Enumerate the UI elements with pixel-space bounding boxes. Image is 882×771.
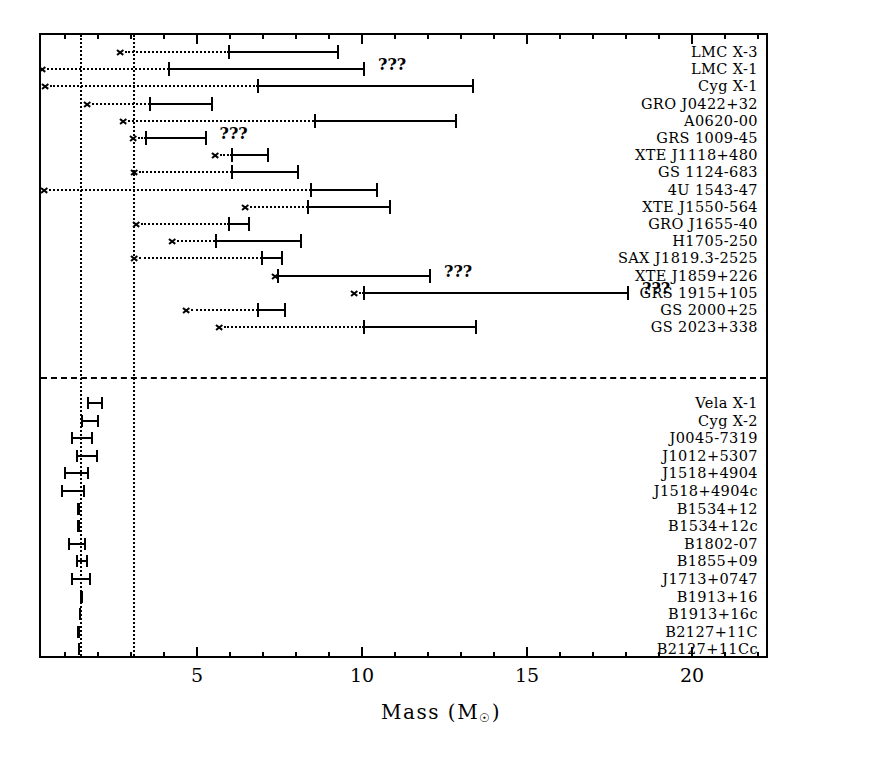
x-tick-top bbox=[328, 33, 330, 39]
measurement-bar bbox=[82, 420, 99, 422]
error-bar-cap-low bbox=[257, 79, 259, 93]
lower-limit-arrow-icon bbox=[117, 45, 124, 59]
object-name-label: XTE J1118+480 bbox=[635, 147, 758, 163]
x-tick-top bbox=[691, 33, 693, 44]
figure-root: LMC X-3???LMC X-1Cyg X-1GRO J0422+32A062… bbox=[0, 0, 882, 771]
error-bar-cap-low bbox=[149, 97, 151, 111]
error-bar-row bbox=[41, 501, 766, 517]
object-name-label: B1534+12c bbox=[668, 518, 758, 534]
error-bar-cap-high bbox=[475, 320, 477, 334]
lower-limit-dotted-line bbox=[49, 189, 312, 191]
reference-line-maximum-neutron-star-mass bbox=[133, 35, 135, 656]
error-bar-cap-low bbox=[231, 165, 233, 179]
error-bar-cap-low bbox=[228, 45, 230, 59]
error-bar-cap-high bbox=[211, 97, 213, 111]
x-tick-major bbox=[196, 647, 198, 658]
object-name-label: J1518+4904c bbox=[654, 483, 758, 499]
error-bar-cap-low bbox=[168, 62, 170, 76]
error-bar-cap-high bbox=[101, 397, 103, 409]
x-tick-minor bbox=[427, 652, 429, 658]
x-tick-label: 15 bbox=[497, 664, 557, 686]
x-tick-top bbox=[625, 33, 627, 39]
x-tick-major bbox=[361, 647, 363, 658]
error-bar-cap-high bbox=[281, 251, 283, 265]
x-tick-top bbox=[592, 33, 594, 39]
uncertain-mass-marker: ??? bbox=[220, 126, 248, 142]
error-bar-cap-low bbox=[71, 573, 73, 585]
error-bar-cap-high bbox=[89, 573, 91, 585]
measurement-bar bbox=[258, 85, 473, 87]
error-bar-row bbox=[41, 78, 766, 94]
lower-limit-arrow-icon bbox=[42, 79, 49, 93]
error-bar-cap-low bbox=[215, 234, 217, 248]
lower-limit-arrow-icon bbox=[120, 114, 127, 128]
error-bar-cap-low bbox=[257, 303, 259, 317]
error-bar-row bbox=[41, 302, 766, 318]
x-tick-minor bbox=[625, 652, 627, 658]
x-tick-top bbox=[724, 33, 726, 39]
x-tick-top bbox=[229, 33, 231, 39]
object-name-label: J1713+0747 bbox=[662, 571, 758, 587]
lower-limit-arrow-icon bbox=[41, 62, 46, 76]
lower-limit-dotted-line bbox=[47, 68, 169, 70]
measurement-bar bbox=[146, 137, 205, 139]
error-bar-cap-high bbox=[267, 148, 269, 162]
uncertain-mass-marker: ??? bbox=[378, 57, 406, 73]
x-tick-label: 5 bbox=[167, 664, 227, 686]
x-tick-top bbox=[361, 33, 363, 44]
error-bar-cap-low bbox=[64, 467, 66, 479]
object-name-label: GRS 1009-45 bbox=[656, 130, 758, 146]
object-name-label: B1913+16c bbox=[668, 606, 758, 622]
x-tick-top bbox=[163, 33, 165, 39]
error-bar-cap-low bbox=[61, 485, 63, 497]
object-name-label: GS 2023+338 bbox=[651, 319, 758, 335]
x-tick-top bbox=[97, 33, 99, 39]
x-tick-minor bbox=[328, 652, 330, 658]
x-tick-top bbox=[427, 33, 429, 39]
x-axis-title: Mass (M☉) bbox=[0, 700, 882, 725]
plot-area: LMC X-3???LMC X-1Cyg X-1GRO J0422+32A062… bbox=[41, 35, 766, 656]
error-bar-cap-low bbox=[277, 269, 279, 283]
error-bar-cap-low bbox=[231, 148, 233, 162]
lower-limit-dotted-line bbox=[125, 51, 229, 53]
error-bar-cap-low bbox=[363, 286, 365, 300]
x-tick-top bbox=[526, 33, 528, 44]
error-bar-row bbox=[41, 182, 766, 198]
error-bar-cap-high bbox=[284, 303, 286, 317]
error-bar-cap-high bbox=[96, 450, 98, 462]
error-bar-row bbox=[41, 536, 766, 552]
error-bar-cap-low bbox=[228, 217, 230, 231]
error-bar-row bbox=[41, 518, 766, 534]
object-name-label: GRS 1915+105 bbox=[639, 285, 758, 301]
error-bar-row bbox=[41, 413, 766, 429]
error-bar-row bbox=[41, 589, 766, 605]
error-bar-cap-high bbox=[205, 131, 207, 145]
object-name-label: B1913+16 bbox=[677, 589, 758, 605]
error-bar-cap-high bbox=[97, 415, 99, 427]
error-bar-cap-low bbox=[314, 114, 316, 128]
error-bar-cap-high bbox=[91, 432, 93, 444]
error-bar-cap-high bbox=[363, 62, 365, 76]
uncertain-mass-marker: ??? bbox=[444, 264, 472, 280]
error-bar-cap-low bbox=[71, 432, 73, 444]
lower-limit-dotted-line bbox=[191, 309, 259, 311]
error-bar-row bbox=[41, 395, 766, 411]
object-name-label: B2127+11C bbox=[665, 624, 758, 640]
error-bar-cap-high bbox=[248, 217, 250, 231]
error-bar-row bbox=[41, 465, 766, 481]
x-tick-minor bbox=[559, 652, 561, 658]
error-bar-cap-high bbox=[297, 165, 299, 179]
x-tick-top bbox=[262, 33, 264, 39]
x-tick-minor bbox=[658, 652, 660, 658]
object-name-label: J1012+5307 bbox=[662, 448, 758, 464]
measurement-bar bbox=[311, 189, 377, 191]
x-tick-minor bbox=[229, 652, 231, 658]
measurement-bar bbox=[216, 240, 302, 242]
x-tick-top bbox=[196, 33, 198, 44]
object-name-label: Vela X-1 bbox=[695, 395, 758, 411]
error-bar-cap-low bbox=[145, 131, 147, 145]
plot-frame: LMC X-3???LMC X-1Cyg X-1GRO J0422+32A062… bbox=[39, 33, 768, 658]
error-bar-row bbox=[41, 624, 766, 640]
x-tick-top bbox=[658, 33, 660, 39]
error-bar-row bbox=[41, 233, 766, 249]
